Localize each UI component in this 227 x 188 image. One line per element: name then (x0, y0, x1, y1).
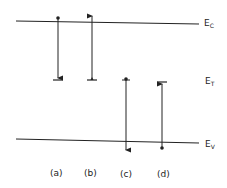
valence-band-line (16, 139, 199, 143)
transition-d (157, 82, 167, 150)
ec-label: EC (204, 18, 214, 29)
label-b: (b) (84, 168, 97, 178)
transition-c (122, 77, 130, 150)
label-a: (a) (50, 168, 63, 178)
transition-a (53, 16, 63, 80)
label-c: (c) (120, 169, 132, 179)
transition-b (87, 16, 97, 80)
conduction-band-line (16, 21, 199, 24)
label-d: (d) (157, 169, 170, 179)
ev-label: EV (205, 139, 216, 150)
energy-band-diagram: EC ET EV (a) (b) (c) (d) (0, 0, 227, 188)
et-label: ET (205, 76, 215, 87)
